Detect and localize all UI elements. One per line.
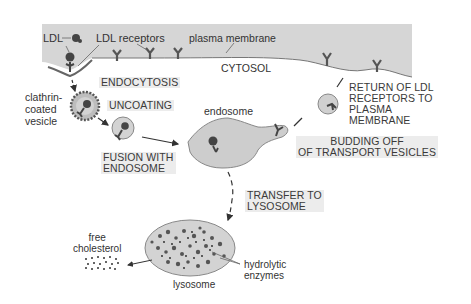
ldl-receptors-label: LDL receptors: [96, 33, 165, 44]
free-cholesterol-dots: [85, 256, 119, 270]
endosome: [188, 118, 288, 168]
transport-vesicle: [318, 94, 338, 114]
bound-ldl-icon: [66, 53, 75, 62]
step-return-receptors: RETURN OF LDL RECEPTORS TO PLASMA MEMBRA…: [347, 82, 436, 126]
lysosome-label: lysosome: [173, 279, 215, 290]
endosome-label: endosome: [204, 106, 253, 117]
hydrolytic-enzymes-label: hydrolytic enzymes: [244, 259, 286, 281]
ldl-label: LDL: [43, 33, 63, 44]
step-fusion: FUSION WITH ENDOSOME: [101, 152, 176, 174]
step-budding: BUDDING OFF OF TRANSPORT VESICLES: [296, 136, 438, 158]
step-uncoating: UNCOATING: [107, 100, 174, 111]
step-transfer: TRANSFER TO LYSOSOME: [245, 190, 324, 212]
uncoated-vesicle: [112, 117, 134, 140]
free-cholesterol-label: free cholesterol: [73, 232, 121, 254]
clathrin-coated-vesicle: [71, 92, 99, 120]
cytosol-label: CYTOSOL: [221, 63, 271, 74]
lysosome: [145, 220, 235, 276]
step-endocytosis: ENDOCYTOSIS: [99, 77, 180, 88]
clathrin-coated-vesicle-label: clathrin- coated vesicle: [25, 91, 62, 127]
plasma-membrane-label: plasma membrane: [189, 33, 276, 44]
